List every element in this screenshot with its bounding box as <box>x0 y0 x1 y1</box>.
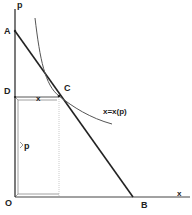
demand-diagram: p A D C x=x(p) x p O B x <box>0 0 192 215</box>
point-b-label: B <box>141 200 148 210</box>
segment-p-label: p <box>24 141 30 151</box>
curve-label: x=x(p) <box>103 107 127 116</box>
arrow-icon <box>20 142 23 148</box>
point-c-label: C <box>64 83 71 93</box>
y-axis-label: p <box>17 0 23 10</box>
point-a-marker <box>14 30 16 32</box>
point-d-marker <box>14 96 16 98</box>
x-axis-label: x <box>177 189 182 198</box>
segment-x-label: x <box>36 94 41 103</box>
curve-x-of-p <box>35 18 112 124</box>
origin-label: O <box>5 198 12 208</box>
point-c-marker <box>58 95 61 98</box>
point-d-label: D <box>4 86 11 96</box>
revenue-rectangle <box>15 97 59 197</box>
point-a-label: A <box>4 26 11 36</box>
